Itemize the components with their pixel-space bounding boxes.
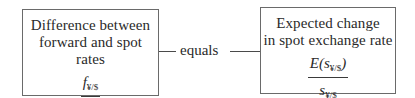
right-num-sub: ¥/$ xyxy=(330,63,342,73)
right-num-suffix: ) xyxy=(341,55,346,71)
left-box-title: Difference between forward and spot rate… xyxy=(23,17,158,68)
connector-line-left xyxy=(159,51,176,52)
left-fraction: f¥/$ s¥/$ xyxy=(81,74,101,98)
right-numerator: E(s¥/$) xyxy=(308,55,349,78)
forward-spot-difference-box: Difference between forward and spot rate… xyxy=(22,9,159,96)
right-denominator: s¥/$ xyxy=(308,78,349,98)
right-fraction: E(s¥/$) s¥/$ xyxy=(308,55,349,98)
connector-line-right xyxy=(230,51,260,52)
left-title-line1: Difference between xyxy=(31,17,150,33)
right-box-title: Expected change in spot exchange rate xyxy=(261,15,395,49)
left-num-sub: ¥/$ xyxy=(87,82,99,92)
right-title-line1: Expected change xyxy=(276,15,380,31)
left-denominator: s¥/$ xyxy=(81,97,101,98)
right-den-sub: ¥/$ xyxy=(325,90,337,98)
right-num-prefix: E( xyxy=(310,55,324,71)
expected-spot-change-box: Expected change in spot exchange rate E(… xyxy=(260,7,396,94)
equals-label: equals xyxy=(180,42,218,59)
left-title-line2: forward and spot rates xyxy=(39,34,142,67)
right-title-line2: in spot exchange rate xyxy=(263,32,392,48)
left-numerator: f¥/$ xyxy=(81,74,101,97)
